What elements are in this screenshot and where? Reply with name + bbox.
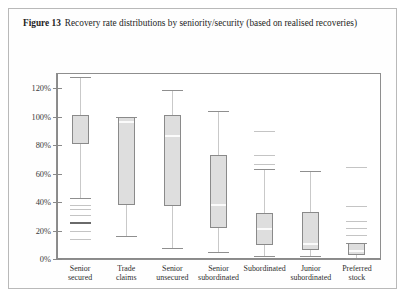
outlier-marker [70, 231, 91, 232]
box-iqr [164, 115, 181, 206]
box-plot: Seniorunsecured [149, 74, 195, 259]
box-plot: Subordinated [242, 74, 288, 259]
upper-whisker-line [218, 111, 219, 155]
outlier-marker [70, 205, 91, 206]
outlier-marker [70, 209, 91, 210]
lower-whisker-line [80, 144, 81, 198]
median-line [119, 121, 134, 123]
x-axis-label: Juniorsubordinated [290, 264, 331, 283]
x-axis-label-line1: Senior [198, 264, 239, 273]
figure-caption: Figure 13Recovery rate distributions by … [23, 17, 385, 30]
lower-whisker-cap [300, 256, 321, 257]
x-axis-label-line1: Senior [68, 264, 92, 273]
box-plot: Seniorsubordinated [195, 74, 241, 259]
figure-number: Figure 13 [23, 18, 61, 28]
x-axis-label-line1: Junior [290, 264, 331, 273]
y-axis-tick-label: 0% [40, 255, 51, 264]
upper-whisker-cap [70, 77, 91, 78]
x-axis-label-line2: claims [116, 273, 137, 282]
median-line [349, 250, 364, 252]
outlier-marker [254, 131, 275, 132]
upper-whisker-line [310, 171, 311, 212]
upper-whisker-line [264, 169, 265, 213]
x-axis-label: Seniorsubordinated [198, 264, 239, 283]
lower-whisker-line [218, 228, 219, 252]
box-iqr [348, 243, 365, 254]
lower-whisker-cap [346, 258, 367, 259]
x-axis-label-line2: subordinated [198, 273, 239, 282]
median-line [211, 204, 226, 206]
x-axis-label: Tradeclaims [116, 264, 137, 283]
lower-whisker-line [126, 205, 127, 236]
upper-whisker-cap [162, 90, 183, 91]
median-line [303, 243, 318, 245]
outlier-marker [346, 228, 367, 229]
x-axis-label: Preferredstock [342, 264, 371, 283]
y-axis-tick-label: 120% [31, 84, 51, 93]
upper-whisker-cap [254, 169, 275, 170]
outlier-marker [254, 155, 275, 156]
outlier-marker [70, 239, 91, 240]
outlier-marker [346, 167, 367, 168]
y-axis-tick-label: 60% [36, 169, 51, 178]
x-axis-label-line1: Subordinated [244, 264, 286, 273]
outlier-marker [346, 235, 367, 236]
y-axis-tick-mark [53, 259, 62, 260]
x-axis-label-line2: stock [342, 273, 371, 282]
x-axis-label: Seniorunsecured [156, 264, 188, 283]
outlier-marker [346, 221, 367, 222]
lower-whisker-line [264, 245, 265, 256]
box-plot: Tradeclaims [103, 74, 149, 259]
y-axis-tick-label: 20% [36, 226, 51, 235]
box-plot: Seniorsecured [57, 74, 103, 259]
lower-whisker-cap [116, 236, 137, 237]
lower-whisker-line [172, 206, 173, 247]
lower-whisker-cap [162, 248, 183, 249]
box-iqr [118, 117, 135, 205]
y-axis-tick-label: 100% [31, 112, 51, 121]
outlier-marker [346, 206, 367, 207]
x-axis-label-line1: Preferred [342, 264, 371, 273]
upper-whisker-line [80, 77, 81, 115]
x-axis-label-line2: subordinated [290, 273, 331, 282]
y-axis-tick-label: 40% [36, 198, 51, 207]
upper-whisker-cap [208, 111, 229, 112]
lower-whisker-cap [208, 252, 229, 253]
box-iqr [210, 155, 227, 228]
x-axis-label: Seniorsecured [68, 264, 92, 283]
box-iqr [72, 115, 89, 143]
x-axis-label-line2: unsecured [156, 273, 188, 282]
x-axis-label-line2: secured [68, 273, 92, 282]
y-axis-tick-label: 80% [36, 141, 51, 150]
outlier-marker [70, 215, 91, 216]
lower-whisker-cap [254, 256, 275, 257]
plot-area: 0%20%40%60%80%100%120% SeniorsecuredTrad… [56, 73, 381, 260]
outlier-marker [70, 222, 91, 224]
box-plot: Preferredstock [334, 74, 380, 259]
median-line [165, 135, 180, 137]
figure-page: Figure 13Recovery rate distributions by … [8, 8, 397, 289]
lower-whisker-cap [70, 198, 91, 199]
median-line [257, 228, 272, 230]
x-axis-label-line1: Trade [116, 264, 137, 273]
upper-whisker-cap [300, 171, 321, 172]
figure-caption-text: Recovery rate distributions by seniority… [65, 18, 357, 28]
x-axis-label: Subordinated [244, 264, 286, 273]
box-plot: Juniorsubordinated [288, 74, 334, 259]
outlier-marker [254, 164, 275, 165]
x-axis-label-line1: Senior [156, 264, 188, 273]
upper-whisker-line [172, 90, 173, 116]
